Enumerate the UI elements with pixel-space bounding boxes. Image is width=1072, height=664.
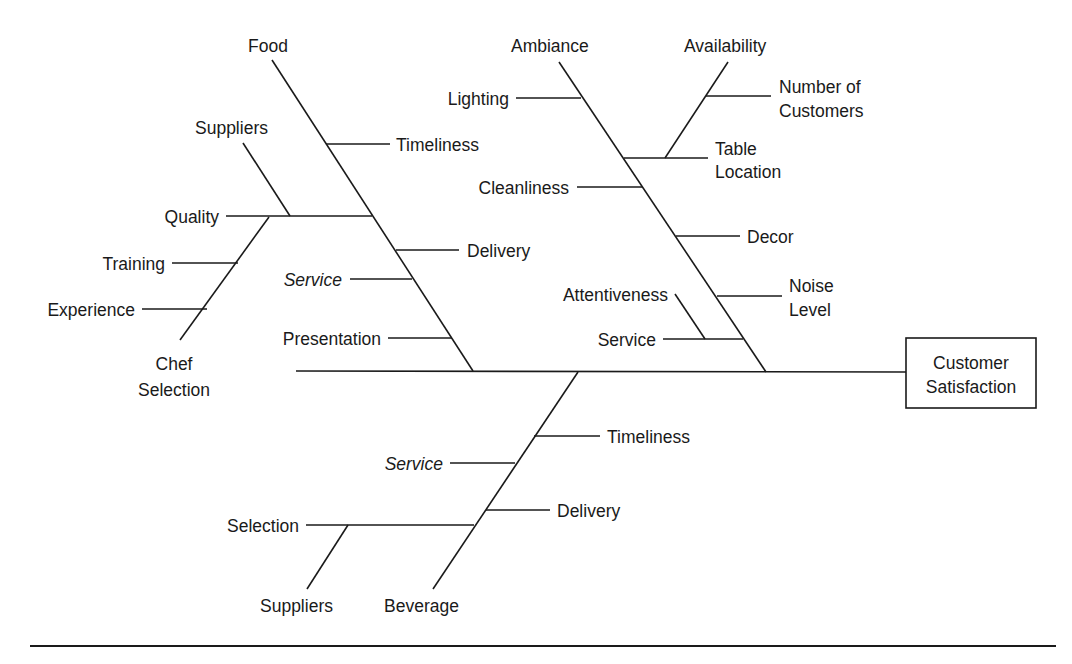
beverage-delivery-label: Delivery [557,501,620,521]
ambiance-attentiveness-label: Attentiveness [563,285,668,305]
ambiance-label: Ambiance [511,36,589,56]
food-chef-label-2: Selection [138,380,210,400]
ambiance-attentiveness-line [675,294,705,339]
availability-customers-label-2: Customers [779,101,864,121]
food-suppliers-label: Suppliers [195,118,268,138]
ambiance-lighting-label: Lighting [448,89,509,109]
effect-label-1: Customer [933,353,1009,373]
ambiance-cleanliness-label: Cleanliness [479,178,570,198]
ambiance-service-label: Service [598,330,656,350]
food-presentation-label: Presentation [283,329,381,349]
beverage-bone [433,372,578,589]
spine [296,371,906,372]
ambiance-noise-label-2: Level [789,300,831,320]
availability-customers-label-1: Number of [779,77,861,97]
beverage-suppliers-line [307,525,348,589]
effect-box [906,338,1036,408]
ambiance-decor-label: Decor [747,227,794,247]
beverage-suppliers-label: Suppliers [260,596,333,616]
food-chef-line [180,217,269,340]
ambiance-bone [559,62,766,372]
availability-label: Availability [684,36,767,56]
food-experience-label: Experience [47,300,135,320]
food-timeliness-label: Timeliness [396,135,479,155]
ambiance-noise-label-1: Noise [789,276,834,296]
beverage-timeliness-label: Timeliness [607,427,690,447]
food-chef-label-1: Chef [156,354,193,374]
availability-table-label-1: Table [715,139,757,159]
food-delivery-label: Delivery [467,241,530,261]
fishbone-diagram: Customer Satisfaction Food Timeliness Qu… [0,0,1072,664]
food-quality-label: Quality [165,207,220,227]
food-suppliers-line [243,143,290,216]
beverage-label: Beverage [384,596,459,616]
effect-label-2: Satisfaction [926,377,1016,397]
beverage-selection-label: Selection [227,516,299,536]
beverage-service-label: Service [385,454,444,474]
food-label: Food [248,36,288,56]
food-training-label: Training [102,254,165,274]
food-service-label: Service [284,270,343,290]
availability-table-label-2: Location [715,162,781,182]
